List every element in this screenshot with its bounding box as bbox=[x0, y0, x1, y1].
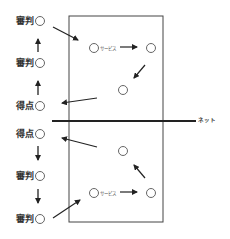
arrow-rotate-top-icon bbox=[134, 65, 145, 78]
referee-top-1-circle bbox=[36, 17, 45, 26]
player-serve-bottom-circle bbox=[90, 189, 99, 198]
referee-label: 審判 bbox=[16, 171, 34, 181]
referee-bottom-2-circle bbox=[36, 215, 45, 224]
arrow-to-scorer-top-icon bbox=[62, 98, 97, 103]
scorer-top-circle bbox=[36, 102, 45, 111]
scorer-bottom-circle bbox=[36, 130, 45, 139]
arrow-referee-to-court-bottom-icon bbox=[53, 200, 80, 218]
arrow-to-scorer-bottom-icon bbox=[62, 138, 97, 147]
referee-label: 審判 bbox=[16, 58, 34, 68]
player-serve-top-circle bbox=[90, 44, 99, 53]
referee-top-2-circle bbox=[36, 59, 45, 68]
scorer-label: 得点 bbox=[16, 129, 34, 139]
player-top-center-circle bbox=[119, 86, 128, 95]
arrow-referee-to-court-icon bbox=[53, 27, 78, 40]
player-bottom-right-circle bbox=[147, 189, 156, 198]
rotation-diagram bbox=[0, 0, 230, 239]
player-top-right-circle bbox=[147, 44, 156, 53]
net-label: ネット bbox=[198, 117, 216, 124]
serve-label-bottom: サービス bbox=[100, 191, 116, 197]
referee-bottom-1-circle bbox=[36, 172, 45, 181]
referee-label: 審判 bbox=[16, 16, 34, 26]
referee-label: 審判 bbox=[16, 214, 34, 224]
serve-label-top: サービス bbox=[100, 46, 116, 52]
arrow-rotate-bottom-icon bbox=[134, 165, 145, 178]
player-bottom-center-circle bbox=[119, 147, 128, 156]
scorer-label: 得点 bbox=[16, 101, 34, 111]
